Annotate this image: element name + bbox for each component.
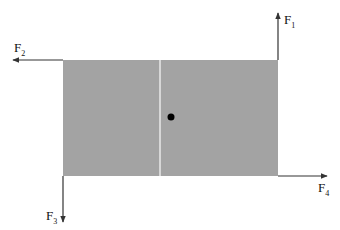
force-label-f3: F3 bbox=[46, 208, 57, 226]
force-label-f2: F2 bbox=[14, 40, 25, 58]
center-point bbox=[168, 114, 175, 121]
force-diagram: F1 F2 F3 F4 bbox=[0, 0, 340, 230]
force-label-f4: F4 bbox=[318, 180, 329, 198]
force-label-f1: F1 bbox=[284, 12, 295, 30]
